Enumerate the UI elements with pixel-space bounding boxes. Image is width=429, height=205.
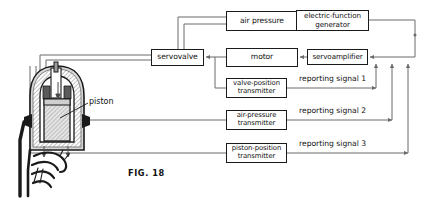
right-shoulder bbox=[64, 86, 71, 99]
block-valve-position-transmitter[interactable]: valve-positiontransmitter bbox=[226, 78, 287, 98]
figure-caption: FIG. 18 bbox=[128, 168, 165, 178]
block-air-pressure-transmitter[interactable]: air-pressuretransmitter bbox=[226, 110, 287, 130]
block-label: electric-functiongenerator bbox=[302, 12, 363, 28]
label-reporting-signal-2: reporting signal 2 bbox=[299, 106, 366, 115]
block-air-pressure[interactable]: air pressure bbox=[226, 11, 298, 31]
block-piston-position-transmitter[interactable]: piston-positiontransmitter bbox=[226, 143, 287, 163]
left-shoulder bbox=[43, 86, 50, 99]
block-motor[interactable]: motor bbox=[226, 48, 298, 67]
handle-stem-inner bbox=[28, 150, 30, 196]
label-piston: piston bbox=[89, 97, 114, 106]
block-label: piston-positiontransmitter bbox=[230, 145, 283, 160]
block-label: valve-positiontransmitter bbox=[231, 80, 282, 95]
right-lug bbox=[82, 114, 90, 128]
block-servoamplifier[interactable]: servoamplifier bbox=[307, 49, 368, 65]
block-servovalve[interactable]: servovalve bbox=[151, 49, 204, 66]
label-reporting-signal-1: reporting signal 1 bbox=[299, 74, 366, 83]
block-electric-function-generator[interactable]: electric-functiongenerator bbox=[296, 10, 369, 31]
block-label: motor bbox=[249, 53, 275, 61]
block-label: servovalve bbox=[155, 53, 199, 61]
block-label: air pressure bbox=[238, 17, 286, 25]
figure-18-diagram: air pressure electric-functiongenerator … bbox=[0, 0, 429, 205]
piston-crown bbox=[44, 99, 70, 105]
handle-stem bbox=[20, 122, 24, 196]
valve-stem bbox=[54, 62, 58, 72]
block-label: air-pressuretransmitter bbox=[235, 112, 279, 127]
label-reporting-signal-3: reporting signal 3 bbox=[299, 139, 366, 148]
block-label: servoamplifier bbox=[310, 53, 364, 61]
